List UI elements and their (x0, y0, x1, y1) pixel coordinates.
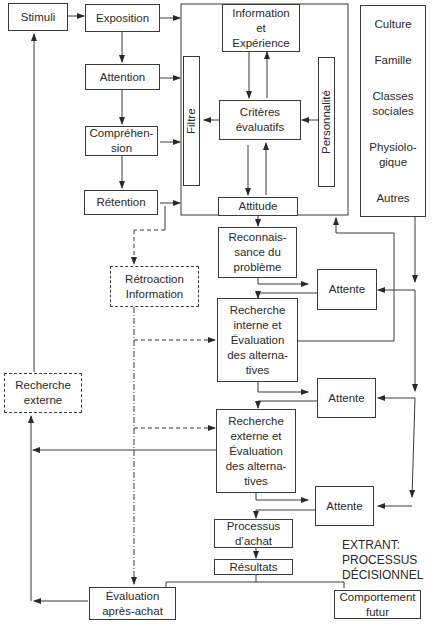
influence-autres: Autres (376, 191, 409, 206)
node-recherche-interne: Recherche interne et Évaluation des alte… (217, 298, 298, 382)
node-evaluation-apres-achat: Évaluation après-achat (89, 587, 176, 620)
node-comprehension: Compréhen- sion (85, 126, 158, 156)
node-attitude: Attitude (218, 197, 298, 216)
node-filtre: Filtre (183, 56, 200, 186)
node-attente-1: Attente (317, 269, 377, 310)
node-retroaction-information: Rétroaction Information (110, 266, 199, 307)
influence-famille: Famille (374, 53, 411, 68)
node-information-experience: Information et Expérience (222, 4, 300, 52)
node-resultats: Résultats (214, 559, 293, 575)
influence-physiologique: Physiolo- gique (369, 140, 416, 170)
node-influences: Culture Famille Classes sociales Physiol… (360, 5, 426, 217)
node-personnalite: Personnalité (318, 57, 335, 187)
influence-classes-sociales: Classes sociales (372, 89, 414, 119)
node-attente-2: Attente (317, 378, 376, 418)
node-comportement-futur: Comportement futur (334, 590, 421, 619)
node-attention: Attention (85, 64, 160, 90)
caption-extrant: EXTRANT: PROCESSUS DÉCISIONNEL (342, 538, 423, 583)
node-attente-3: Attente (315, 486, 374, 526)
node-reconnaissance-probleme: Reconnais- sance du problème (218, 227, 297, 278)
node-recherche-externe-evaluation: Recherche externe et Évaluation des alte… (216, 409, 296, 493)
node-recherche-externe: Recherche externe (4, 373, 82, 413)
node-processus-achat: Processus d’achat (214, 519, 293, 548)
influence-culture: Culture (374, 17, 411, 32)
node-retention: Rétention (84, 190, 158, 215)
node-exposition: Exposition (85, 4, 160, 32)
node-stimuli: Stimuli (8, 3, 68, 31)
node-criteres-evaluatifs: Critères évaluatifs (219, 100, 301, 140)
